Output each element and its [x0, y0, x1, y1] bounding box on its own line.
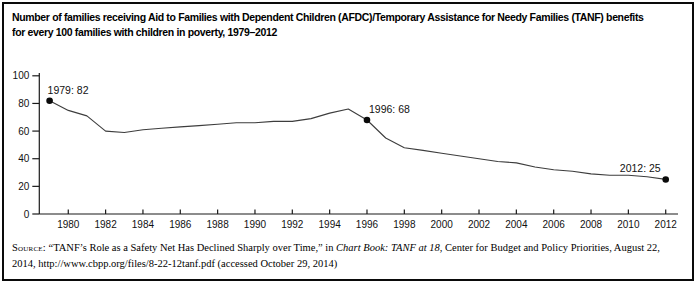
y-tick-label: 0 — [24, 209, 30, 220]
x-tick-label: 2002 — [468, 219, 491, 230]
data-point-label-1979: 1979: 82 — [48, 84, 89, 96]
y-tick-label: 80 — [18, 98, 30, 109]
x-tick-label: 1990 — [244, 219, 267, 230]
source-note: Source: “TANF’s Role as a Safety Net Has… — [12, 240, 682, 272]
data-point-1979 — [46, 97, 53, 104]
x-tick-label: 1982 — [94, 219, 117, 230]
x-tick-label: 1992 — [281, 219, 304, 230]
data-point-1996 — [364, 117, 371, 124]
x-tick-label: 2010 — [617, 219, 640, 230]
x-tick-label: 1980 — [57, 219, 80, 230]
y-tick-label: 20 — [18, 181, 30, 192]
x-tick-label: 2008 — [580, 219, 603, 230]
data-point-label-2012: 2012: 25 — [620, 162, 661, 174]
x-tick-label: 2004 — [505, 219, 528, 230]
x-tick-label: 1998 — [393, 219, 416, 230]
x-tick-label: 1984 — [132, 219, 155, 230]
x-tick-label: 2000 — [431, 219, 454, 230]
y-tick-label: 40 — [18, 153, 30, 164]
x-tick-label: 2012 — [655, 219, 678, 230]
source-text-pre: “TANF’s Role as a Safety Net Has Decline… — [46, 242, 336, 253]
chart-title-line1: Number of families receiving Aid to Fami… — [12, 10, 686, 25]
data-point-label-1996: 1996: 68 — [369, 103, 410, 115]
figure-frame: 0204060801001980198219841986198819901992… — [2, 2, 694, 281]
y-tick-label: 60 — [18, 126, 30, 137]
source-text-italic: Chart Book: TANF at 18 — [336, 242, 440, 253]
line-chart: 0204060801001980198219841986198819901992… — [4, 4, 692, 279]
y-tick-label: 100 — [13, 70, 30, 81]
chart-title-line2: for every 100 families with children in … — [12, 25, 686, 40]
x-tick-label: 1986 — [169, 219, 192, 230]
x-tick-label: 2006 — [543, 219, 566, 230]
x-tick-label: 1996 — [356, 219, 379, 230]
scanned-figure-page: { "title": { "line1": "Number of familie… — [0, 0, 696, 283]
data-point-2012 — [662, 176, 669, 183]
data-series-line — [50, 101, 666, 180]
chart-title: Number of families receiving Aid to Fami… — [12, 10, 686, 40]
x-tick-label: 1994 — [319, 219, 342, 230]
source-label: Source: — [12, 242, 46, 253]
x-tick-label: 1988 — [207, 219, 230, 230]
